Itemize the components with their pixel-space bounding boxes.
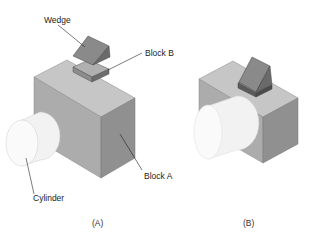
cylinder <box>6 112 60 166</box>
wedge <box>73 36 110 65</box>
block-b-leader <box>108 53 142 70</box>
caption-a: (A) <box>92 218 104 228</box>
label-block-a: Block A <box>144 171 173 181</box>
caption-b: (B) <box>243 218 255 228</box>
label-wedge: Wedge <box>44 15 71 25</box>
assembly-diagram: Wedge Block B Block A Cylinder (A) (B) <box>0 0 317 234</box>
panel-b: (B) <box>194 57 298 228</box>
panel-a: Wedge Block B Block A Cylinder (A) <box>6 15 174 228</box>
label-cylinder: Cylinder <box>33 193 64 203</box>
label-block-b: Block B <box>145 48 174 58</box>
wedge-leader <box>58 25 85 47</box>
